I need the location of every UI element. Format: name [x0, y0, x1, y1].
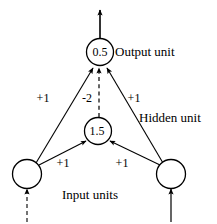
weight-right-input-to-hidden: +1	[112, 157, 132, 169]
edge-left-input-to-output	[36, 68, 93, 163]
weight-left-input-to-output: +1	[33, 92, 53, 104]
hidden-unit-caption: Hidden unit	[139, 111, 201, 124]
output-unit-caption: Output unit	[115, 45, 175, 58]
diagram-canvas: 0.5 1.5 +1 -2 +1 +1 +1 Output unit Hidde…	[0, 0, 217, 224]
weight-hidden-to-output: -2	[78, 92, 96, 104]
weight-right-input-to-output: +1	[124, 92, 144, 104]
input-unit-right-circle[interactable]	[157, 160, 186, 189]
input-units-caption: Input units	[62, 188, 118, 201]
hidden-unit-value: 1.5	[84, 125, 110, 137]
weight-left-input-to-hidden: +1	[53, 157, 73, 169]
input-unit-left-circle[interactable]	[13, 160, 42, 189]
output-unit-value: 0.5	[87, 46, 113, 58]
